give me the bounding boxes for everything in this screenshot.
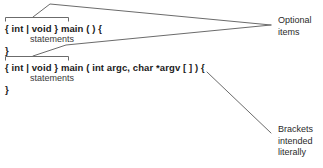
code-closing-brace-block1: } (5, 45, 9, 56)
code-statements-block2: statements (30, 73, 74, 84)
leader-line-optional-block1 (33, 4, 271, 25)
annotation-brackets-literally: Brackets intended literally (278, 124, 323, 159)
optional-span-marker-block2 (6, 57, 69, 61)
optional-span-marker-block1 (6, 18, 69, 22)
code-statements-block1: statements (30, 34, 74, 45)
code-signature-block1: { int | void } main ( ) { (5, 23, 102, 34)
code-closing-brace-block2: } (5, 84, 9, 95)
code-signature-block2: { int | void } main ( int argc, char *ar… (5, 62, 205, 73)
leader-line-brackets-literal (207, 72, 271, 133)
syntax-diagram: { int | void } main ( ) { statements } {… (0, 0, 323, 168)
annotation-optional-items: Optional items (278, 15, 323, 38)
